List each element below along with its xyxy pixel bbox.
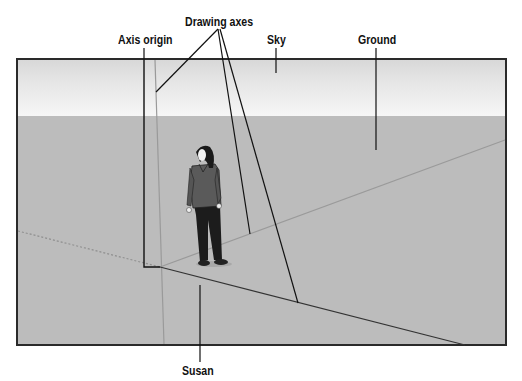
sky-label: Sky <box>267 33 286 47</box>
sky-region <box>18 60 505 116</box>
axis-origin-label: Axis origin <box>118 33 173 47</box>
drawing-axes-label: Drawing axes <box>185 15 253 29</box>
ground-region <box>18 116 505 344</box>
susan-label: Susan <box>182 364 214 378</box>
ground-label: Ground <box>358 33 396 47</box>
sketchup-viewport[interactable] <box>16 58 507 346</box>
